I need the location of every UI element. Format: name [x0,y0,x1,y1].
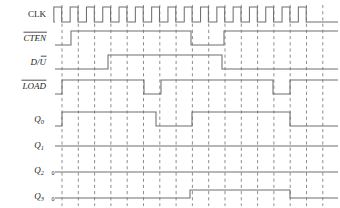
signal-label-cten: CTEN [23,33,47,43]
signal-label-d/u: D/U [30,57,47,67]
zero-marker-q2: 0 [52,170,55,176]
timing-diagram-svg: CLKCTEND/ULOADQ0Q1Q20Q30 [0,0,340,208]
signal-labels-group: CLKCTEND/ULOADQ0Q1Q20Q30 [21,9,54,202]
signal-label-q2: Q2 [34,165,45,176]
waveform-clk [54,7,338,22]
waveform-q3 [55,190,338,198]
waveform-load [55,80,338,94]
signal-label-q0: Q0 [34,114,45,125]
grid-lines-group [62,5,323,206]
zero-marker-q3: 0 [52,196,55,202]
signal-label-load: LOAD [21,81,46,91]
signal-label-q1: Q1 [34,140,44,151]
waveforms-group [54,7,338,198]
timing-diagram-root: CLKCTEND/ULOADQ0Q1Q20Q30 [0,0,340,208]
signal-label-clk: CLK [28,9,47,19]
signal-label-q3: Q3 [34,191,45,202]
waveform-d/u [55,55,338,69]
waveform-q0 [55,112,338,126]
waveform-cten [55,31,338,45]
